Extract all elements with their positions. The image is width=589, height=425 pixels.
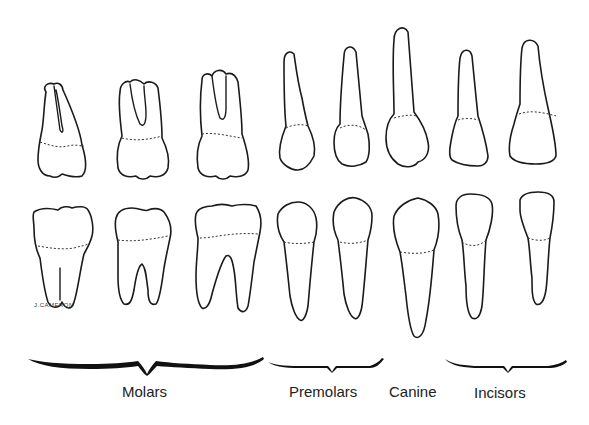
lower-molar-3 bbox=[195, 205, 261, 312]
premolars-brace bbox=[268, 358, 384, 373]
lower-premolar-1 bbox=[277, 202, 316, 320]
lower-incisor-2 bbox=[520, 192, 554, 304]
upper-premolar-2 bbox=[334, 47, 369, 166]
label-premolars: Premolars bbox=[289, 383, 357, 400]
lower-molar-1 bbox=[33, 207, 93, 308]
upper-molar-3 bbox=[197, 70, 248, 179]
artist-signature: J.CAMERON bbox=[34, 302, 74, 308]
upper-molar-1 bbox=[38, 83, 86, 177]
upper-molar-2 bbox=[117, 80, 168, 179]
label-molars: Molars bbox=[122, 383, 167, 400]
label-incisors: Incisors bbox=[474, 384, 526, 401]
lower-premolar-2 bbox=[333, 198, 372, 319]
label-canine: Canine bbox=[389, 383, 437, 400]
molars-brace bbox=[28, 357, 264, 376]
lower-molar-2 bbox=[115, 208, 171, 304]
upper-canine bbox=[386, 28, 429, 167]
lower-incisor-1 bbox=[456, 194, 493, 319]
incisors-brace bbox=[445, 359, 567, 373]
lower-canine bbox=[393, 198, 438, 337]
upper-incisor-2 bbox=[509, 40, 556, 164]
teeth-diagram bbox=[0, 0, 589, 425]
upper-premolar-1 bbox=[279, 52, 314, 170]
upper-incisor-1 bbox=[450, 50, 488, 166]
